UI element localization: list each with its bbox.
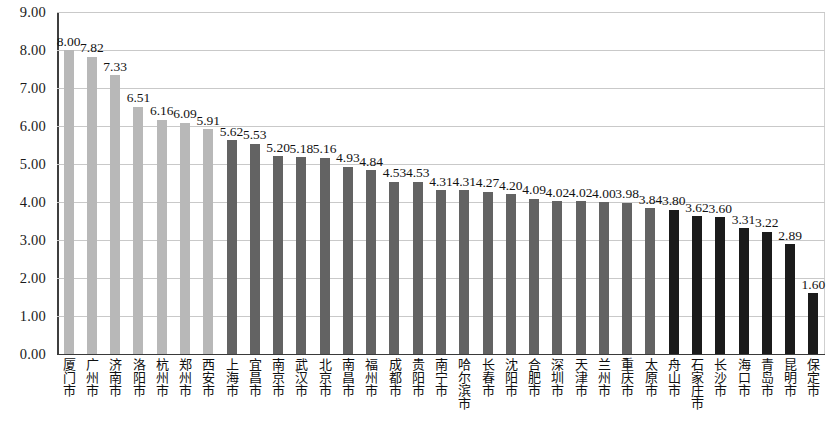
- bar-group: 4.31: [429, 12, 452, 354]
- bar[interactable]: [273, 156, 283, 354]
- bar[interactable]: [64, 50, 74, 354]
- x-axis-category: 北京市: [313, 358, 336, 397]
- bar-group: 4.02: [569, 12, 592, 354]
- x-axis-category: 郑州市: [173, 358, 196, 397]
- bar[interactable]: [320, 158, 330, 354]
- bar-group: 4.31: [453, 12, 476, 354]
- bar-value-label: 3.98: [615, 187, 639, 201]
- bar-value-label: 5.16: [313, 142, 337, 156]
- bar[interactable]: [180, 123, 190, 354]
- bar-group: 3.80: [662, 12, 685, 354]
- bar[interactable]: [227, 140, 237, 354]
- x-axis-category: 南京市: [266, 358, 289, 397]
- bar[interactable]: [599, 202, 609, 354]
- x-axis-category: 重庆市: [616, 358, 639, 397]
- x-axis-category-label: 深圳市: [551, 358, 564, 397]
- x-axis-category-label: 沈阳市: [504, 358, 517, 397]
- bar[interactable]: [529, 199, 539, 354]
- x-axis-category: 福州市: [360, 358, 383, 397]
- bar[interactable]: [296, 157, 306, 354]
- bar-value-label: 6.16: [150, 104, 174, 118]
- bar-value-label: 3.80: [662, 194, 686, 208]
- bar-group: 4.93: [336, 12, 359, 354]
- x-axis-category: 青岛市: [755, 358, 778, 397]
- x-axis-category: 昆明市: [778, 358, 801, 397]
- bar[interactable]: [645, 208, 655, 354]
- bar-value-label: 4.31: [429, 175, 453, 189]
- x-axis-category-label: 南京市: [271, 358, 284, 397]
- x-axis-category: 海口市: [732, 358, 755, 397]
- y-axis-tick: 3.00: [20, 232, 46, 249]
- bar-group: 5.16: [313, 12, 336, 354]
- bar[interactable]: [506, 194, 516, 354]
- bar-value-label: 4.31: [452, 175, 476, 189]
- x-axis-category: 哈尔滨市: [453, 358, 476, 410]
- x-axis-category-label: 合肥市: [527, 358, 540, 397]
- bar[interactable]: [459, 190, 469, 354]
- x-axis-category-label: 北京市: [318, 358, 331, 397]
- bar-value-label: 5.20: [266, 141, 290, 155]
- x-axis-category-label: 重庆市: [621, 358, 634, 397]
- y-axis-tick: 6.00: [20, 118, 46, 135]
- bar[interactable]: [389, 182, 399, 354]
- bar-group: 4.09: [522, 12, 545, 354]
- bar-group: 3.84: [639, 12, 662, 354]
- x-axis-category-labels: 厦门市广州市济南市洛阳市杭州市郑州市西安市上海市宜昌市南京市武汉市北京市南昌市福…: [57, 358, 825, 434]
- x-axis-category: 石家庄市: [685, 358, 708, 410]
- bar[interactable]: [157, 120, 167, 354]
- x-axis-category-label: 昆明市: [783, 358, 796, 397]
- x-axis-category-label: 哈尔滨市: [458, 358, 471, 410]
- bar[interactable]: [576, 201, 586, 354]
- x-axis-category-label: 舟山市: [667, 358, 680, 397]
- bar-group: 1.60: [802, 12, 825, 354]
- bar-value-label: 5.18: [290, 142, 314, 156]
- bar[interactable]: [203, 129, 213, 354]
- x-axis-category-label: 天津市: [574, 358, 587, 397]
- bar[interactable]: [622, 203, 632, 354]
- bar-group: 2.89: [778, 12, 801, 354]
- bar[interactable]: [692, 216, 702, 354]
- bar-value-label: 2.89: [778, 229, 802, 243]
- bar-value-label: 3.22: [755, 216, 779, 230]
- x-axis-category-label: 长春市: [481, 358, 494, 397]
- bar-value-label: 7.82: [80, 41, 104, 55]
- bar[interactable]: [87, 57, 97, 354]
- bar-group: 4.27: [476, 12, 499, 354]
- x-axis-category-label: 长沙市: [714, 358, 727, 397]
- bar[interactable]: [110, 75, 120, 354]
- bar[interactable]: [436, 190, 446, 354]
- x-axis-category: 济南市: [104, 358, 127, 397]
- bar-value-label: 4.84: [359, 155, 383, 169]
- bar[interactable]: [343, 167, 353, 354]
- x-axis-category-label: 西安市: [202, 358, 215, 397]
- bar-value-label: 4.09: [522, 183, 546, 197]
- x-axis-category: 天津市: [569, 358, 592, 397]
- bar-value-label: 1.60: [802, 278, 826, 292]
- bar[interactable]: [739, 228, 749, 354]
- x-axis-category-label: 南昌市: [341, 358, 354, 397]
- bar-group: 3.31: [732, 12, 755, 354]
- x-axis-category-label: 济南市: [109, 358, 122, 397]
- bar-group: 4.53: [406, 12, 429, 354]
- bar[interactable]: [133, 107, 143, 354]
- y-axis-tick: 7.00: [20, 80, 46, 97]
- bar[interactable]: [413, 182, 423, 354]
- x-axis-category: 长春市: [476, 358, 499, 397]
- bar-value-label: 5.62: [220, 125, 244, 139]
- bar-value-label: 8.00: [57, 35, 81, 49]
- x-axis-category: 舟山市: [662, 358, 685, 397]
- bar[interactable]: [366, 170, 376, 354]
- x-axis-category-label: 厦门市: [62, 358, 75, 397]
- bar-group: 5.62: [220, 12, 243, 354]
- bar[interactable]: [250, 144, 260, 354]
- bar[interactable]: [785, 244, 795, 354]
- bar-value-label: 3.31: [732, 213, 756, 227]
- x-axis-category-label: 武汉市: [295, 358, 308, 397]
- bar[interactable]: [762, 232, 772, 354]
- bar[interactable]: [808, 293, 818, 354]
- bar[interactable]: [483, 192, 493, 354]
- bar[interactable]: [552, 201, 562, 354]
- bar[interactable]: [715, 217, 725, 354]
- bar[interactable]: [669, 210, 679, 354]
- y-axis-tick: 0.00: [20, 346, 46, 363]
